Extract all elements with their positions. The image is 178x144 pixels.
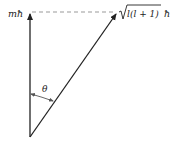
magnitude-label: l(l + 1) ħ <box>119 5 170 19</box>
angular-momentum-vector-arrow <box>30 14 116 137</box>
magnitude-radicand: l(l + 1) <box>127 9 159 19</box>
diagram-canvas: θ mħ l(l + 1) ħ <box>0 0 178 144</box>
theta-label: θ <box>42 84 48 94</box>
angle-arc <box>31 94 53 101</box>
magnitude-hbar: ħ <box>164 8 170 19</box>
m-hbar-label: mħ <box>8 8 23 19</box>
